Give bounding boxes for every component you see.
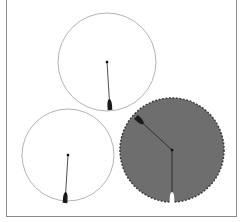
dials-canvas: [0, 0, 242, 222]
dial-top: [58, 13, 156, 111]
pivot-icon: [67, 154, 69, 156]
pivot-icon: [171, 149, 173, 151]
dial-bottom-right: [120, 98, 224, 203]
dial-bottom-left: [22, 109, 114, 203]
pivot-icon: [106, 61, 108, 63]
